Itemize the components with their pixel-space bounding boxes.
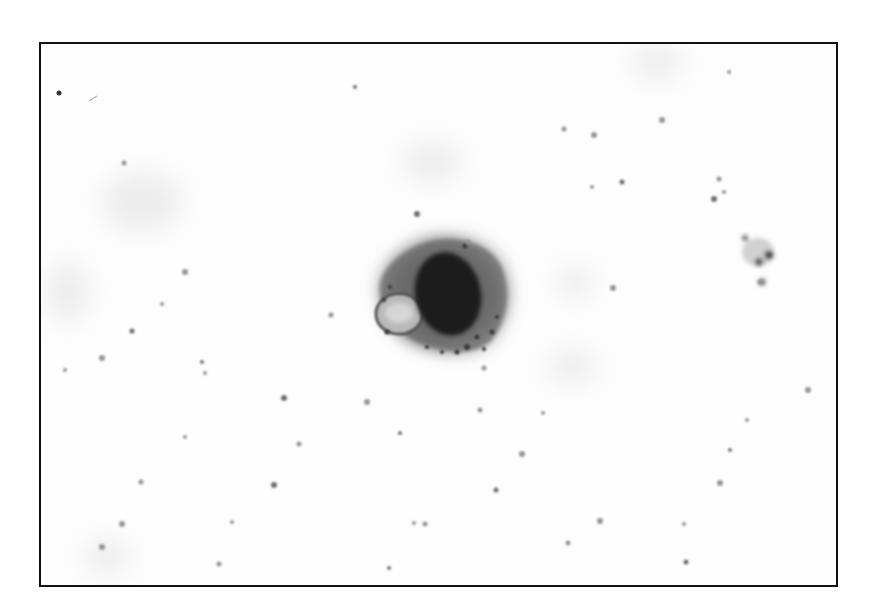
particle	[281, 395, 287, 401]
particle	[203, 371, 207, 375]
particle	[182, 269, 188, 275]
particle	[711, 196, 717, 202]
particle	[423, 522, 428, 527]
particle	[758, 280, 763, 285]
micrograph-image	[41, 44, 836, 585]
particle	[122, 161, 127, 166]
cell	[373, 230, 516, 360]
particle	[519, 451, 525, 457]
particle	[597, 518, 603, 524]
particle	[566, 541, 571, 546]
particle	[63, 368, 67, 372]
particle	[717, 480, 723, 486]
cell-cluster	[742, 235, 774, 286]
particle	[130, 329, 135, 334]
particle	[217, 562, 222, 567]
particle	[478, 408, 483, 413]
particle	[414, 211, 420, 217]
particle	[482, 366, 487, 371]
particle	[183, 435, 187, 439]
particle	[139, 480, 144, 485]
particle	[562, 127, 567, 132]
particle	[364, 399, 370, 405]
particle	[727, 70, 731, 74]
particle	[659, 117, 665, 123]
particle	[329, 313, 334, 318]
particle	[119, 521, 125, 527]
particle	[684, 560, 689, 565]
particle	[466, 240, 471, 245]
particle	[353, 85, 357, 89]
background-haze	[45, 44, 682, 575]
particle	[412, 521, 416, 525]
particle	[99, 355, 105, 361]
particle	[200, 360, 204, 364]
micrograph-frame	[39, 42, 838, 587]
particle	[398, 431, 402, 435]
particle	[271, 482, 277, 488]
particle	[590, 185, 594, 189]
particle	[591, 132, 597, 138]
particle	[745, 418, 749, 422]
particle	[541, 411, 545, 415]
particle	[297, 442, 302, 447]
particle	[99, 544, 105, 550]
particle	[230, 520, 234, 524]
particle	[805, 387, 811, 393]
particle	[620, 180, 625, 185]
particle	[722, 190, 726, 194]
particle	[160, 302, 164, 306]
particle	[610, 285, 616, 291]
particle	[387, 566, 391, 570]
particle	[682, 522, 686, 526]
particle	[717, 177, 722, 182]
particle	[494, 488, 499, 493]
particle	[728, 448, 732, 452]
